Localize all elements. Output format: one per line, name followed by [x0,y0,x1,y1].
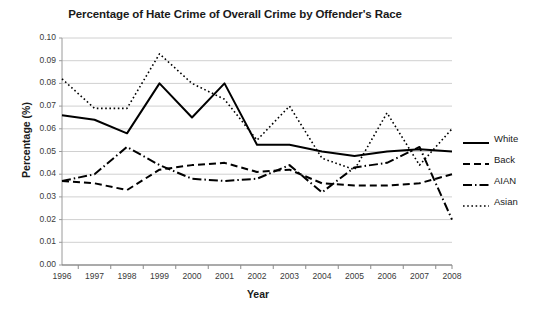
chart-figure: Percentage of Hate Crime of Overall Crim… [0,0,543,311]
legend-item-white[interactable]: White [463,128,543,149]
y-tick-label: 0.02 [16,214,56,224]
x-axis-title: Year [58,288,458,300]
legend-swatch-back-icon [463,155,489,165]
y-tick-label: 0.01 [16,236,56,246]
legend-swatch-white-icon [463,134,489,144]
x-tick-marks [78,265,452,269]
y-tick-label: 0.09 [16,55,56,65]
legend-item-asian[interactable]: Asian [463,191,543,212]
legend-swatch-aian-icon [463,176,489,186]
legend-label: Asian [494,196,518,207]
y-tick-label: 0.00 [16,259,56,269]
plot-area [0,0,543,311]
series-line-back [62,163,452,190]
legend-label: White [494,133,518,144]
series-line-aian [62,147,452,220]
y-tick-label: 0.05 [16,146,56,156]
series-lines [62,54,452,220]
legend-label: Back [494,154,515,165]
y-tick-label: 0.07 [16,100,56,110]
legend-label: AIAN [494,175,516,186]
legend-item-aian[interactable]: AIAN [463,170,543,191]
y-tick-label: 0.04 [16,168,56,178]
x-tick-label: 2008 [432,271,472,281]
y-tick-label: 0.03 [16,191,56,201]
legend-swatch-asian-icon [463,197,489,207]
y-tick-label: 0.10 [16,32,56,42]
y-tick-label: 0.06 [16,123,56,133]
series-line-white [62,83,452,156]
legend-item-back[interactable]: Back [463,149,543,170]
chart-legend: WhiteBackAIANAsian [463,128,543,212]
y-tick-label: 0.08 [16,77,56,87]
